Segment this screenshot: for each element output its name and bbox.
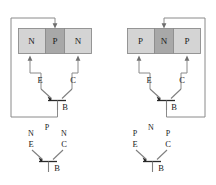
pnp-legend-emitter-terminal-label: E bbox=[132, 139, 137, 149]
npn-legend-region-base-label: P bbox=[45, 123, 50, 132]
npn-emitter-arrowhead bbox=[28, 56, 33, 61]
npn-collector-terminal-label: C bbox=[70, 75, 76, 85]
npn-legend-base-terminal-label: B bbox=[54, 163, 60, 173]
pnp-legend-collector-terminal-label: C bbox=[165, 139, 171, 149]
npn-legend-collector-terminal-label: C bbox=[61, 139, 67, 149]
pnp-transistor-symbol: E C B bbox=[146, 75, 185, 112]
npn-doped-region-block: N P N bbox=[19, 29, 92, 54]
pnp-emitter-arrowhead bbox=[137, 56, 142, 61]
pnp-doped-region-block: P N P bbox=[128, 29, 201, 54]
pnp-base-terminal-label: B bbox=[171, 102, 177, 112]
pnp-collector-terminal-label: C bbox=[179, 75, 185, 85]
pnp-region-base-label: N bbox=[161, 36, 168, 46]
pnp-region-emitter-label: P bbox=[138, 36, 143, 46]
npn-region-collector-label: N bbox=[75, 36, 82, 46]
pnp-legend-region-emitter-label: P bbox=[133, 129, 138, 138]
device-npn: N P N E C B bbox=[11, 18, 92, 173]
npn-legend-emitter-terminal-label: E bbox=[28, 139, 33, 149]
pnp-legend-symbol: P N P E C B bbox=[132, 123, 171, 173]
pnp-base-arrowhead bbox=[162, 23, 167, 28]
pnp-legend-base-terminal-label: B bbox=[158, 163, 164, 173]
pnp-collector-arrowhead bbox=[185, 56, 190, 61]
npn-legend-region-emitter-label: N bbox=[28, 129, 34, 138]
npn-region-emitter-label: N bbox=[28, 36, 35, 46]
npn-legend-region-collector-label: N bbox=[61, 129, 67, 138]
npn-legend-symbol: N P N E C B bbox=[28, 123, 67, 173]
device-pnp: P N P E C B P bbox=[128, 18, 206, 173]
npn-collector-arrowhead bbox=[76, 56, 81, 61]
npn-base-terminal-label: B bbox=[62, 102, 68, 112]
npn-emitter-terminal-label: E bbox=[37, 75, 42, 85]
pnp-legend-region-collector-label: P bbox=[166, 129, 171, 138]
figure-canvas: N P N E C B bbox=[0, 0, 216, 185]
npn-base-arrowhead bbox=[53, 23, 58, 28]
bjt-structure-figure: N P N E C B bbox=[0, 0, 216, 185]
pnp-legend-region-base-label: N bbox=[148, 123, 154, 132]
pnp-emitter-terminal-label: E bbox=[146, 75, 151, 85]
pnp-region-collector-label: P bbox=[184, 36, 189, 46]
npn-region-base-label: P bbox=[52, 36, 57, 46]
npn-transistor-symbol: E C B bbox=[37, 75, 76, 112]
